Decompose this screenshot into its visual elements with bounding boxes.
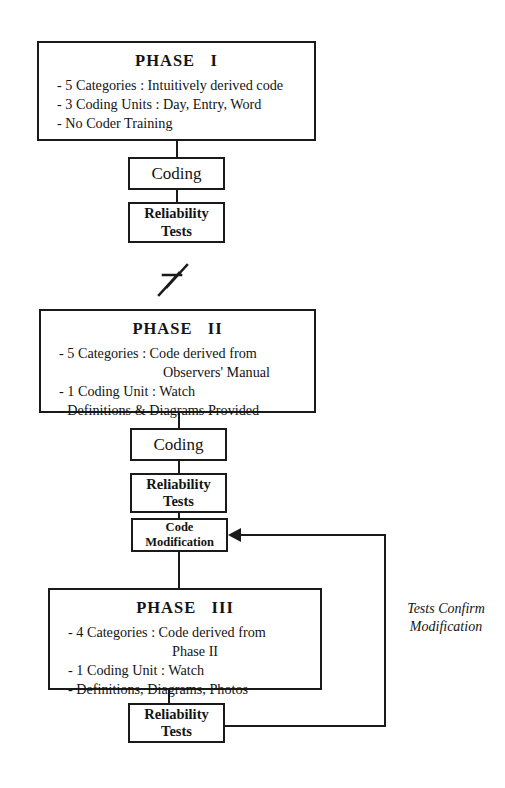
code-modification-label-1: Code: [166, 520, 194, 535]
phase-2-bullet-1: - 5 Categories : Code derived from: [59, 344, 304, 363]
phase-3-bullet-2: - 1 Coding Unit : Watch: [68, 661, 310, 680]
phase-1-coding-box[interactable]: Coding: [128, 157, 225, 190]
phase-3-bullet-1-continuation: Phase II: [68, 642, 310, 661]
phase-1-bullet-2: - 3 Coding Units : Day, Entry, Word: [57, 95, 304, 114]
phase-2-bullet-2: - 1 Coding Unit : Watch: [59, 382, 304, 401]
feedback-annotation-label: Tests Confirm Modification: [394, 600, 498, 636]
phase-3-reliability-label-1: Reliability: [144, 706, 208, 723]
phase-3-box[interactable]: PHASE III - 4 Categories : Code derived …: [48, 588, 322, 690]
feedback-line-horizontal-top: [239, 534, 386, 536]
phase-2-coding-box[interactable]: Coding: [130, 428, 227, 461]
connector-phase1-to-coding: [176, 141, 178, 158]
phase-2-box[interactable]: PHASE II - 5 Categories : Code derived f…: [39, 309, 316, 413]
feedback-line-vertical-right: [384, 534, 386, 727]
break-lightning-icon: [155, 263, 197, 303]
phase-1-reliability-label-2: Tests: [161, 223, 192, 240]
phase-2-title: PHASE II: [51, 319, 304, 339]
phase-1-title: PHASE I: [49, 51, 304, 71]
phase-2-reliability-label-1: Reliability: [146, 476, 210, 493]
phase-3-title: PHASE III: [60, 598, 310, 618]
code-modification-label-2: Modification: [145, 535, 214, 550]
phase-1-box[interactable]: PHASE I - 5 Categories : Intuitively der…: [37, 41, 316, 141]
phase-2-reliability-tests-box[interactable]: Reliability Tests: [130, 473, 227, 513]
phase-3-bullet-1: - 4 Categories : Code derived from: [68, 623, 310, 642]
phase-1-bullets: - 5 Categories : Intuitively derived cod…: [49, 76, 304, 133]
phase-3-bullets: - 4 Categories : Code derived from Phase…: [60, 623, 310, 699]
feedback-arrowhead-icon: [228, 528, 241, 542]
phase-3-bullet-3: - Definitions, Diagrams, Photos: [68, 680, 310, 699]
phase-3-reliability-tests-box[interactable]: Reliability Tests: [128, 703, 225, 743]
phase-2-bullet-1-continuation: Observers' Manual: [59, 363, 304, 382]
phase-1-bullet-3: - No Coder Training: [57, 114, 304, 133]
connector-codemod-to-phase3: [178, 552, 180, 589]
phase-1-reliability-label-1: Reliability: [144, 205, 208, 222]
phase-2-bullet-3: - Definitions & Diagrams Provided: [59, 401, 304, 420]
phase-1-coding-label: Coding: [151, 164, 201, 184]
phase-2-bullets: - 5 Categories : Code derived from Obser…: [51, 344, 304, 420]
feedback-line-horizontal-bottom: [225, 725, 386, 727]
phase-2-coding-label: Coding: [153, 435, 203, 455]
phase-1-reliability-tests-box[interactable]: Reliability Tests: [128, 202, 225, 243]
phase-3-reliability-label-2: Tests: [161, 723, 192, 740]
flowchart-canvas: PHASE I - 5 Categories : Intuitively der…: [0, 0, 505, 788]
phase-2-reliability-label-2: Tests: [163, 493, 194, 510]
code-modification-box[interactable]: Code Modification: [131, 518, 228, 552]
phase-1-bullet-1: - 5 Categories : Intuitively derived cod…: [57, 76, 304, 95]
